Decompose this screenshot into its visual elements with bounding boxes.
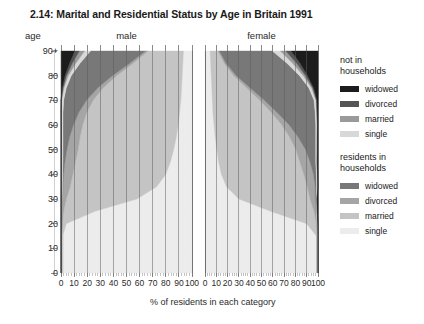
x-tick-label: 50 [257,278,266,288]
x-tick-label: 80 [291,278,300,288]
x-tick-label: 30 [234,278,243,288]
x-tick-label: 60 [268,278,277,288]
y-tick-label: 90+ [18,46,58,56]
x-axis-caption: % of residents in each category [150,297,276,307]
legend-group-heading: residents inhouseholds [340,152,424,174]
x-tick-label: 100 [185,278,199,288]
legend-item-label: divorced [365,196,397,206]
legend-swatch [340,86,359,92]
y-axis-tick-labels: 0102030405060708090+ [14,0,58,324]
y-tick-label: 0 [18,268,58,278]
legend-item-label: married [365,211,394,221]
x-tick-label: 90 [174,278,183,288]
legend-heading-line1: residents in [340,152,424,163]
legend-item-label: single [365,129,387,139]
y-tick-label: 50 [18,145,58,155]
legend-item-label: married [365,114,394,124]
legend-swatch [340,198,359,204]
chart-legend: not inhouseholdswidoweddivorcedmarriedsi… [340,55,424,249]
x-tick-label: 80 [161,278,170,288]
legend-swatch [340,131,359,137]
y-tick-label: 10 [18,243,58,253]
x-tick-label: 10 [69,278,78,288]
legend-item[interactable]: single [340,127,424,140]
y-tick-label: 80 [18,71,58,81]
legend-group: not inhouseholdswidoweddivorcedmarriedsi… [340,55,424,140]
y-tick-label: 30 [18,194,58,204]
y-tick-label: 70 [18,95,58,105]
x-tick-label: 0 [203,278,208,288]
y-tick-label: 60 [18,120,58,130]
legend-item-label: widowed [365,181,398,191]
legend-heading-line2: households [340,66,424,77]
legend-item[interactable]: widowed [340,179,424,192]
legend-item[interactable]: divorced [340,97,424,110]
legend-swatch [340,101,359,107]
legend-swatch [340,183,359,189]
legend-item[interactable]: married [340,112,424,125]
x-tick-label: 10 [212,278,221,288]
figure: 2.14: Marital and Residential Status by … [0,0,424,324]
x-tick-label: 70 [279,278,288,288]
x-tick-label: 40 [109,278,118,288]
legend-swatch [340,228,359,234]
x-tick-label: 50 [122,278,131,288]
y-tick-label: 20 [18,219,58,229]
legend-item-label: divorced [365,99,397,109]
legend-item[interactable]: single [340,224,424,237]
legend-item-label: single [365,226,387,236]
legend-swatch [340,213,359,219]
legend-group: residents inhouseholdswidoweddivorcedmar… [340,152,424,237]
y-tick-label: 40 [18,169,58,179]
x-tick-label: 20 [82,278,91,288]
legend-item-label: widowed [365,84,398,94]
legend-swatch [340,116,359,122]
legend-heading-line2: households [340,163,424,174]
legend-item[interactable]: married [340,209,424,222]
legend-heading-line1: not in [340,55,424,66]
x-tick-label: 70 [148,278,157,288]
x-tick-label: 40 [245,278,254,288]
x-tick-label: 0 [59,278,64,288]
legend-item[interactable]: widowed [340,82,424,95]
x-tick-label: 100 [311,278,325,288]
legend-item[interactable]: divorced [340,194,424,207]
x-tick-label: 60 [135,278,144,288]
legend-group-heading: not inhouseholds [340,55,424,77]
x-tick-label: 20 [223,278,232,288]
x-tick-label: 30 [96,278,105,288]
